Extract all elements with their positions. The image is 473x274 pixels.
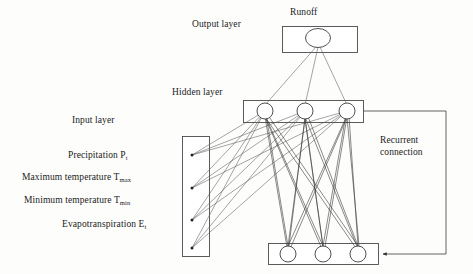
input-layer-box [183, 137, 210, 257]
input-label-maximum-temperature: Maximum temperature Tmax [22, 171, 131, 183]
neural-network-diagram: Runoff Output layer Hidden layer Input l… [0, 0, 473, 274]
input-label-evapotranspiration-text: Evapotranspiration E [62, 219, 144, 229]
context-node-1[interactable] [280, 246, 296, 262]
hidden-node-3[interactable] [339, 103, 355, 119]
input-layer-label: Input layer [72, 114, 115, 126]
context-node-3[interactable] [350, 246, 366, 262]
input-label-evapotranspiration-sub: t [144, 223, 146, 230]
input-node-3[interactable] [191, 219, 194, 222]
input-label-evapotranspiration: Evapotranspiration Et [62, 218, 146, 230]
recurrent-connection-line1: Recurrent [380, 135, 418, 145]
input-node-1[interactable] [191, 154, 194, 157]
input-label-maximum-temperature-sub: max [119, 176, 131, 183]
recurrent-connection-label: Recurrent connection [380, 134, 450, 158]
input-to-hidden-links [192, 111, 347, 248]
hidden-to-context-links [265, 117, 359, 249]
input-label-minimum-temperature-sub: min [120, 199, 131, 206]
hidden-node-2[interactable] [297, 103, 313, 119]
input-label-precipitation-text: Precipitation P [68, 150, 126, 160]
input-label-minimum-temperature-text: Minimum temperature T [24, 195, 120, 205]
input-label-maximum-temperature-text: Maximum temperature T [22, 172, 119, 182]
runoff-label: Runoff [290, 6, 317, 18]
hidden-to-output-links [265, 47, 347, 105]
hidden-node-1[interactable] [257, 103, 273, 119]
input-label-minimum-temperature: Minimum temperature Tmin [24, 194, 130, 206]
context-node-2[interactable] [315, 246, 331, 262]
input-node-2[interactable] [191, 187, 194, 190]
input-label-precipitation: Precipitation Pt [68, 149, 128, 161]
hidden-layer-label: Hidden layer [172, 86, 223, 98]
output-node-runoff[interactable] [306, 29, 331, 48]
recurrent-connection-path [364, 111, 447, 254]
input-label-precipitation-sub: t [126, 154, 128, 161]
recurrent-connection-line2: connection [380, 147, 423, 157]
output-layer-label: Output layer [192, 18, 241, 30]
input-node-4[interactable] [191, 247, 194, 250]
